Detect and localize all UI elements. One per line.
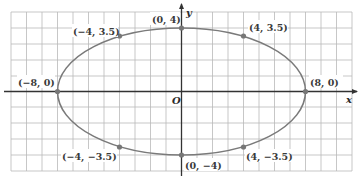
x-axis-arrow-icon xyxy=(352,89,358,94)
point-0-4 xyxy=(179,25,184,30)
label-neg4-neg3.5: (−4, −3.5) xyxy=(62,151,117,163)
label-neg4-3.5: (−4, 3.5) xyxy=(73,26,120,38)
ellipse-diagram: (0, 4) (−4, 3.5) (4, 3.5) (−8, 0) (8, 0)… xyxy=(0,0,361,181)
x-axis-label: x xyxy=(345,94,353,105)
label-4-neg3.5: (4, −3.5) xyxy=(246,151,293,163)
y-axis-label: y xyxy=(185,7,193,18)
labels: (0, 4) (−4, 3.5) (4, 3.5) (−8, 0) (8, 0)… xyxy=(17,7,353,172)
label-0-neg4: (0, −4) xyxy=(185,160,222,172)
label-0-4: (0, 4) xyxy=(152,14,181,26)
label-8-0: (8, 0) xyxy=(310,77,339,89)
point-0-neg4 xyxy=(179,152,184,157)
point-neg4-neg3.5 xyxy=(117,144,122,149)
point-4-neg3.5 xyxy=(241,144,246,149)
point-8-0 xyxy=(303,89,308,94)
label-neg8-0: (−8, 0) xyxy=(18,77,55,89)
y-axis-arrow-icon xyxy=(179,3,184,9)
label-4-3.5: (4, 3.5) xyxy=(249,22,288,34)
point-4-3.5 xyxy=(241,33,246,38)
origin-label: O xyxy=(172,95,181,106)
point-neg8-0 xyxy=(55,89,60,94)
